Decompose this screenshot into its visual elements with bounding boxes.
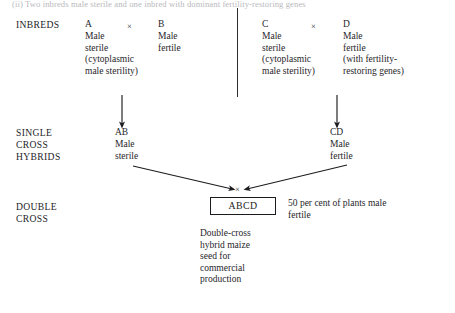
cross-symbol-cd: × [311, 21, 316, 31]
row-label-inbreds: INBREDS [16, 19, 60, 31]
inbred-d-description: Male fertile (with fertility- restoring … [343, 31, 404, 77]
cross-symbol-abcd: × [235, 184, 240, 194]
inbred-d-code: D [343, 19, 350, 31]
hybrid-cd-code: CD [330, 127, 343, 139]
hybrid-ab-description: Male sterile [115, 139, 138, 162]
vertical-divider [237, 8, 238, 97]
double-cross-caption: Double-cross hybrid maize seed for comme… [200, 228, 251, 286]
inbred-b-code: B [158, 19, 164, 31]
figure-heading: (ii) Two inbreds male sterile and one in… [12, 0, 306, 9]
figure-canvas: (ii) Two inbreds male sterile and one in… [0, 0, 455, 313]
double-cross-note: 50 per cent of plants male fertile [288, 198, 386, 221]
row-label-single-cross-hybrids: SINGLE CROSS HYBRIDS [16, 127, 61, 162]
inbred-b-description: Male fertile [158, 31, 181, 54]
inbred-a-description: Male sterile (cytoplasmic male sterility… [85, 31, 138, 77]
arrow-ab-to-abcd [133, 166, 232, 189]
inbred-c-description: Male sterile (cytoplasmic male sterility… [262, 31, 315, 77]
cross-symbol-ab: × [127, 21, 132, 31]
row-label-double-cross: DOUBLE CROSS [16, 201, 57, 225]
hybrid-cd-description: Male fertile [330, 139, 353, 162]
double-cross-hybrid-box: ABCD [210, 197, 276, 215]
inbred-c-code: C [262, 19, 268, 31]
arrow-cd-to-abcd [247, 165, 347, 189]
hybrid-ab-code: AB [115, 127, 128, 139]
inbred-a-code: A [85, 19, 92, 31]
